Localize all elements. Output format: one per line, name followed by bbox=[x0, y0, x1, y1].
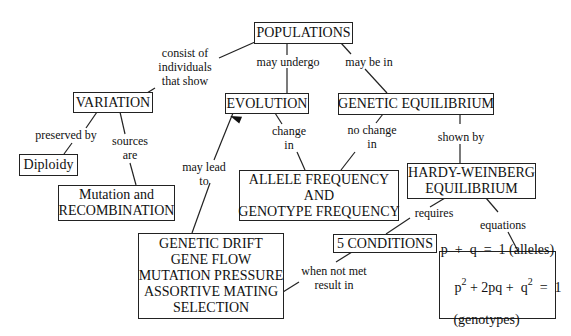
link-no-change-in-l1: no change bbox=[345, 123, 399, 137]
node-populations: POPULATIONS bbox=[254, 22, 353, 44]
link-may-be-in-text: may be in bbox=[345, 55, 392, 69]
equation-genotypes: p2 + 2pq + q2 = 1 bbox=[433, 264, 561, 312]
eq-end: = 1 bbox=[533, 280, 562, 295]
link-consist-of-l1: consist of bbox=[153, 46, 217, 60]
node-mutation-recombination: Mutation and RECOMBINATION bbox=[58, 185, 175, 221]
mechanism-assortive-mating: ASSORTIVE MATING bbox=[144, 284, 278, 300]
link-sources-are: sources are bbox=[110, 134, 150, 162]
link-change-in: change in bbox=[268, 124, 310, 152]
equation-genotypes-label: (genotypes) bbox=[453, 312, 519, 328]
node-genetic-equilibrium: GENETIC EQUILIBRIUM bbox=[338, 93, 494, 115]
node-variation-text: VARIATION bbox=[76, 95, 150, 111]
link-sources-are-l2: are bbox=[110, 148, 150, 162]
node-recombination-line: RECOMBINATION bbox=[59, 203, 175, 219]
node-allele-frequency-line: ALLELE FREQUENCY bbox=[249, 172, 389, 188]
mechanism-selection: SELECTION bbox=[173, 300, 249, 316]
node-allele-genotype-frequency: ALLELE FREQUENCY AND GENOTYPE FREQUENCY bbox=[239, 170, 399, 221]
node-genotype-frequency-line: GENOTYPE FREQUENCY bbox=[238, 204, 399, 220]
link-may-lead-to-l1: may lead bbox=[180, 160, 228, 174]
link-change-in-l2: in bbox=[268, 138, 310, 152]
node-genetic-equilibrium-text: GENETIC EQUILIBRIUM bbox=[338, 96, 494, 112]
node-and-line: AND bbox=[304, 188, 334, 204]
link-may-lead-to-l2: to bbox=[180, 174, 228, 188]
eq-mid: + 2pq + q bbox=[466, 280, 527, 295]
node-hardy-weinberg-line: HARDY-WEINBERG bbox=[408, 165, 535, 181]
mechanism-gene-flow: GENE FLOW bbox=[171, 252, 252, 268]
equation-alleles: p + q = 1 (alleles) bbox=[441, 242, 554, 258]
node-populations-text: POPULATIONS bbox=[256, 25, 350, 41]
link-may-undergo: may undergo bbox=[253, 55, 323, 69]
link-may-undergo-text: may undergo bbox=[257, 55, 320, 69]
node-diploidy-text: Diploidy bbox=[24, 157, 74, 173]
link-requires: requires bbox=[411, 206, 457, 220]
link-when-not-met: when not met result in bbox=[298, 264, 370, 292]
link-equations: equations bbox=[472, 218, 534, 232]
link-when-not-met-l2: result in bbox=[298, 278, 370, 292]
link-shown-by: shown by bbox=[437, 130, 485, 144]
link-no-change-in-l2: in bbox=[345, 137, 399, 151]
link-may-be-in: may be in bbox=[342, 55, 396, 69]
concept-map: POPULATIONS VARIATION EVOLUTION GENETIC … bbox=[0, 0, 571, 336]
node-variation: VARIATION bbox=[73, 92, 153, 113]
link-consist-of-l2: individuals bbox=[153, 60, 217, 74]
link-consist-of-l3: that show bbox=[153, 74, 217, 88]
node-five-conditions-text: 5 CONDITIONS bbox=[337, 236, 433, 252]
node-mutation-line: Mutation and bbox=[79, 187, 154, 203]
node-equations: p + q = 1 (alleles) p2 + 2pq + q2 = 1 (g… bbox=[439, 251, 556, 319]
link-when-not-met-l1: when not met bbox=[298, 264, 370, 278]
mechanism-mutation-pressure: MUTATION PRESSURE bbox=[139, 268, 284, 284]
link-requires-text: requires bbox=[415, 206, 454, 220]
link-shown-by-text: shown by bbox=[438, 130, 484, 144]
node-hardy-weinberg: HARDY-WEINBERG EQUILIBRIUM bbox=[407, 163, 536, 199]
link-preserved-by-text: preserved by bbox=[35, 128, 97, 142]
node-mechanisms: GENETIC DRIFT GENE FLOW MUTATION PRESSUR… bbox=[138, 233, 284, 319]
node-diploidy: Diploidy bbox=[19, 154, 78, 176]
link-change-in-l1: change bbox=[268, 124, 310, 138]
link-equations-text: equations bbox=[480, 218, 526, 232]
node-evolution-text: EVOLUTION bbox=[227, 96, 308, 112]
node-equilibrium-line: EQUILIBRIUM bbox=[425, 181, 518, 197]
link-preserved-by: preserved by bbox=[34, 128, 98, 142]
link-may-lead-to: may lead to bbox=[180, 160, 228, 188]
node-evolution: EVOLUTION bbox=[225, 93, 309, 114]
mechanism-genetic-drift: GENETIC DRIFT bbox=[159, 236, 263, 252]
node-five-conditions: 5 CONDITIONS bbox=[333, 234, 437, 253]
link-no-change-in: no change in bbox=[345, 123, 399, 151]
link-consist-of: consist of individuals that show bbox=[153, 46, 217, 88]
link-sources-are-l1: sources bbox=[110, 134, 150, 148]
